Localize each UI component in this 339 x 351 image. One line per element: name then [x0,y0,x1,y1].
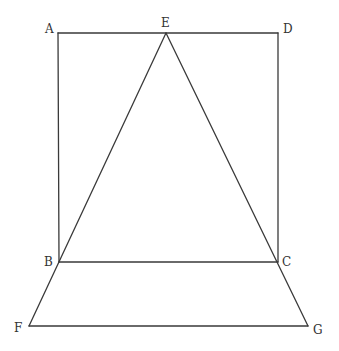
label-C: C [282,255,291,269]
label-D: D [283,22,293,36]
label-E: E [161,16,170,30]
diagram-labels: A E D B C F G [14,16,323,337]
label-B: B [44,255,53,269]
segment-EF [29,33,166,326]
label-G: G [313,323,323,337]
label-A: A [44,22,54,36]
label-F: F [14,321,22,335]
geometry-diagram: A E D B C F G [0,0,339,351]
segment-EG [166,33,308,326]
diagram-segments [29,33,308,326]
segment-AB [58,33,59,262]
